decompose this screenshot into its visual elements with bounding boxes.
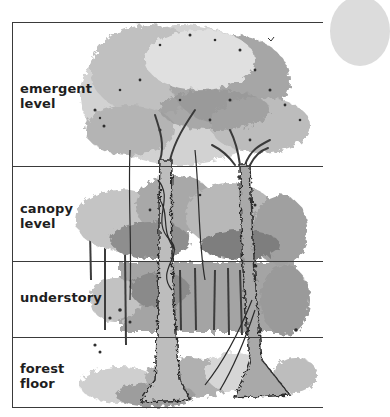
label-canopy-level: canopy level bbox=[20, 201, 73, 231]
label-understory: understory bbox=[20, 290, 102, 305]
bird-icon bbox=[268, 37, 274, 41]
label-forest-floor: forest floor bbox=[20, 361, 64, 391]
label-emergent-level: emergent level bbox=[20, 81, 92, 111]
top-line bbox=[12, 22, 323, 23]
understory-foliage bbox=[90, 262, 310, 335]
canopy-understory-divider bbox=[12, 261, 323, 262]
forest-floor-shrubs bbox=[80, 352, 317, 407]
understory-floor-divider bbox=[12, 337, 323, 338]
left-border-line bbox=[12, 22, 13, 408]
canopy-foliage bbox=[75, 175, 308, 265]
emergent-crown bbox=[80, 25, 310, 165]
bottom-line bbox=[12, 407, 323, 408]
emergent-canopy-divider bbox=[12, 166, 323, 167]
